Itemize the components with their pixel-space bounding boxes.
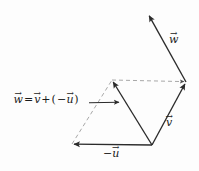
equation-plus: + bbox=[41, 93, 50, 106]
minus-sign: − bbox=[103, 147, 112, 160]
w-translated-vector-line bbox=[113, 82, 152, 145]
w-symbol: →w bbox=[169, 34, 178, 45]
v-symbol: →v bbox=[166, 117, 172, 128]
vector-accent-icon: → bbox=[170, 29, 177, 38]
equation-w-symbol: →w bbox=[14, 94, 23, 105]
w-resultant-vector-line bbox=[149, 16, 186, 82]
equation-label: →w=→v+(−→u) bbox=[13, 94, 79, 105]
equation-close-paren: ) bbox=[74, 93, 78, 106]
equation-u-symbol: →u bbox=[67, 94, 74, 105]
minus-u-vector-label: −→u bbox=[103, 148, 119, 159]
equation-v-symbol: →v bbox=[34, 94, 40, 105]
vector-accent-icon: → bbox=[112, 143, 119, 152]
construction-diagonal-line bbox=[72, 80, 112, 144]
construction-top-line bbox=[112, 80, 184, 82]
vector-diagram-figure: →w=→v+(−→u) →w →v −→u bbox=[0, 0, 199, 171]
vector-accent-icon: → bbox=[34, 89, 41, 98]
vector-accent-icon: → bbox=[66, 89, 73, 98]
vector-accent-icon: → bbox=[165, 112, 172, 121]
equation-pointer-arrow bbox=[89, 102, 119, 103]
equation-minus: − bbox=[57, 93, 66, 106]
u-symbol: →u bbox=[112, 148, 119, 159]
vector-diagram-canvas bbox=[0, 0, 199, 171]
equation-equals: = bbox=[24, 93, 33, 106]
vector-accent-icon: → bbox=[15, 89, 22, 98]
v-vector-label: →v bbox=[166, 117, 172, 128]
equation-open-paren: ( bbox=[52, 93, 56, 106]
w-vector-label: →w bbox=[169, 34, 178, 45]
